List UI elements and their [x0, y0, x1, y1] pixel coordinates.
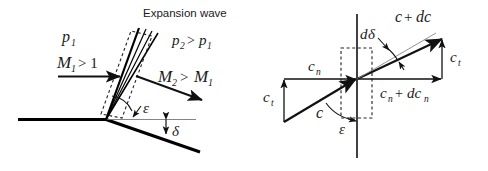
figure-container: Expansion wave p 1 p 2 > p 1 M 1 > 1 M 2… — [0, 0, 488, 171]
svg-text:dc: dc — [407, 85, 422, 101]
svg-text:t: t — [271, 98, 274, 108]
svg-text:c: c — [395, 8, 402, 25]
svg-text:>: > — [180, 69, 188, 85]
label-d-delta: d δ — [360, 26, 376, 42]
svg-text:1: 1 — [71, 37, 76, 48]
label-epsilon-left: ε — [143, 100, 149, 116]
svg-text:c: c — [380, 85, 387, 101]
right-diagram-svg: c + dc d δ c n c t c t c n — [244, 0, 488, 171]
svg-text:M: M — [193, 67, 209, 86]
svg-text:p: p — [171, 32, 180, 48]
label-m1-gt-1: M 1 > 1 — [56, 53, 98, 74]
svg-text:p: p — [198, 32, 207, 48]
svg-text:t: t — [458, 58, 461, 68]
svg-text:p: p — [61, 28, 70, 46]
svg-text:δ: δ — [368, 26, 376, 42]
svg-text:c: c — [263, 89, 270, 105]
svg-text:c: c — [308, 58, 315, 74]
svg-text:1: 1 — [208, 77, 213, 88]
label-m2-gt-m1: M 2 > M 1 — [157, 67, 213, 88]
outgoing-velocity-vector-c-plus-dc — [357, 39, 442, 79]
svg-text:+: + — [404, 9, 412, 25]
wall-downstream-deflected — [106, 120, 200, 153]
svg-text:n: n — [388, 94, 393, 104]
svg-text:M: M — [157, 67, 173, 86]
svg-text:+: + — [395, 86, 403, 101]
svg-text:dc: dc — [416, 8, 431, 25]
svg-text:> 1: > 1 — [78, 55, 98, 71]
panel-velocity-vector-triangle: c + dc d δ c n c t c t c n — [244, 0, 488, 171]
label-ct-outgoing: c t — [450, 49, 461, 68]
label-cn-incoming: c n — [308, 58, 321, 77]
label-p2-gt-p1: p 2 > p 1 — [171, 32, 212, 51]
panel-expansion-wave-geometry: Expansion wave p 1 p 2 > p 1 M 1 > 1 M 2… — [0, 0, 244, 171]
left-diagram-svg: Expansion wave p 1 p 2 > p 1 M 1 > 1 M 2… — [0, 0, 244, 171]
svg-text:1: 1 — [71, 63, 76, 74]
expansion-fan-rays — [106, 28, 158, 120]
label-c-plus-dc: c + dc — [395, 8, 431, 25]
label-expansion-wave: Expansion wave — [143, 7, 227, 19]
label-delta-left: δ — [172, 123, 180, 139]
svg-text:n: n — [424, 94, 429, 104]
svg-text:n: n — [316, 67, 321, 77]
svg-text:2: 2 — [172, 77, 177, 88]
label-ct-incoming: c t — [263, 89, 274, 108]
svg-text:>: > — [187, 33, 195, 48]
svg-text:d: d — [360, 26, 368, 42]
label-cn-outgoing: c n + dc n — [380, 85, 429, 104]
epsilon-angle-indicator — [326, 103, 356, 121]
svg-text:c: c — [450, 49, 457, 65]
svg-text:M: M — [56, 53, 72, 72]
svg-text:2: 2 — [180, 41, 185, 51]
svg-text:1: 1 — [207, 41, 212, 51]
label-c-vector: c — [316, 104, 323, 121]
label-epsilon-right: ε — [339, 121, 345, 137]
label-p1: p 1 — [61, 28, 76, 48]
